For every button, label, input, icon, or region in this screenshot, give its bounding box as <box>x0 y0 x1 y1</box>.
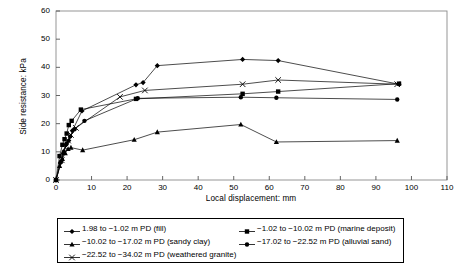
y-tick-label: 20 <box>24 120 50 128</box>
x-tick-label: 10 <box>79 184 105 192</box>
legend-row: 1.98 to −1.02 m PD (fill) −1.02 to −10.0… <box>62 222 402 235</box>
legend-label: 1.98 to −1.02 m PD (fill) <box>82 223 166 234</box>
y-tick-label: 60 <box>24 7 50 15</box>
y-tick-label: 50 <box>24 35 50 43</box>
legend-item-sandy-clay: −10.02 to −17.02 m PD (sandy clay) <box>62 236 237 247</box>
x-tick-label: 60 <box>256 184 282 192</box>
triangle-marker-icon <box>62 236 82 247</box>
circle-marker-icon <box>237 236 257 247</box>
x-tick-label: 80 <box>327 184 353 192</box>
legend-item-marine-deposit: −1.02 to −10.02 m PD (marine deposit) <box>237 223 402 234</box>
square-marker-icon <box>237 223 257 234</box>
x-tick-label: 20 <box>114 184 140 192</box>
x-tick-label: 100 <box>398 184 424 192</box>
x-tick-label: 110 <box>434 184 460 192</box>
y-tick-label: 30 <box>24 92 50 100</box>
y-tick-label: 0 <box>24 176 50 184</box>
cross-marker-icon <box>62 249 82 260</box>
legend-row: −10.02 to −17.02 m PD (sandy clay) −17.0… <box>62 235 402 248</box>
legend-label: −10.02 to −17.02 m PD (sandy clay) <box>82 236 210 247</box>
chart-legend: 1.98 to −1.02 m PD (fill) −1.02 to −10.0… <box>57 218 404 263</box>
legend-label: −17.02 to −22.52 m PD (alluvial sand) <box>257 236 391 247</box>
diamond-marker-icon <box>62 223 82 234</box>
x-tick-label: 40 <box>185 184 211 192</box>
x-tick-label: 50 <box>221 184 247 192</box>
legend-item-fill: 1.98 to −1.02 m PD (fill) <box>62 223 237 234</box>
x-tick-label: 70 <box>292 184 318 192</box>
legend-item-weathered-granite: −22.52 to −34.02 m PD (weathered granite… <box>62 249 237 260</box>
legend-label: −1.02 to −10.02 m PD (marine deposit) <box>257 223 395 234</box>
y-tick-label: 40 <box>24 63 50 71</box>
legend-grid: 1.98 to −1.02 m PD (fill) −1.02 to −10.0… <box>62 222 402 261</box>
x-tick-label: 0 <box>43 184 69 192</box>
chart-figure: Side resistance: kPa Local displacement:… <box>0 0 461 269</box>
x-axis-label: Local displacement: mm <box>56 194 446 203</box>
legend-row: −22.52 to −34.02 m PD (weathered granite… <box>62 248 402 261</box>
legend-label: −22.52 to −34.02 m PD (weathered granite… <box>82 249 236 260</box>
x-tick-label: 90 <box>363 184 389 192</box>
y-tick-label: 10 <box>24 148 50 156</box>
legend-item-alluvial-sand: −17.02 to −22.52 m PD (alluvial sand) <box>237 236 402 247</box>
x-tick-label: 30 <box>150 184 176 192</box>
